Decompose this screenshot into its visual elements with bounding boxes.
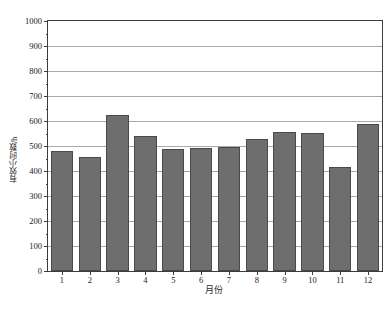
x-axis-tick-label: 10 <box>308 276 317 285</box>
y-axis-tick <box>44 246 48 247</box>
y-axis-tick <box>44 271 48 272</box>
gridline <box>48 121 382 122</box>
y-axis-title: 有效小时数/h <box>6 110 22 210</box>
x-axis-tick-label: 8 <box>255 276 259 285</box>
bar <box>106 115 128 271</box>
y-axis-tick-label: 900 <box>29 42 42 51</box>
y-axis-minor-tick <box>46 234 48 235</box>
bar <box>301 133 323 271</box>
bar <box>329 167 351 271</box>
y-axis-tick <box>44 71 48 72</box>
y-axis-tick-label: 100 <box>29 242 42 251</box>
y-axis-minor-tick <box>46 34 48 35</box>
y-axis-minor-tick <box>46 134 48 135</box>
y-axis-minor-tick <box>46 209 48 210</box>
y-axis-tick <box>44 46 48 47</box>
x-axis-tick-label: 5 <box>171 276 175 285</box>
x-axis-tick-label: 7 <box>227 276 231 285</box>
plot-area: 0100200300400500600700800900100012345678… <box>47 20 383 272</box>
bar <box>246 139 268 271</box>
y-axis-tick-label: 500 <box>29 142 42 151</box>
y-axis-tick <box>44 171 48 172</box>
x-axis-tick-label: 3 <box>115 276 119 285</box>
bar <box>190 148 212 271</box>
y-axis-tick-label: 800 <box>29 67 42 76</box>
bar <box>218 147 240 272</box>
y-axis-minor-tick <box>46 84 48 85</box>
y-axis-tick-label: 400 <box>29 167 42 176</box>
x-axis-tick-label: 12 <box>364 276 373 285</box>
x-axis-tick-label: 11 <box>336 276 344 285</box>
x-axis-tick-label: 2 <box>88 276 92 285</box>
y-axis-tick <box>44 196 48 197</box>
y-axis-tick <box>44 221 48 222</box>
gridline <box>48 146 382 147</box>
y-axis-tick-label: 0 <box>38 267 42 276</box>
x-axis-title: 月份 <box>47 285 381 295</box>
plot-inner: 0100200300400500600700800900100012345678… <box>48 21 382 271</box>
y-axis-tick <box>44 96 48 97</box>
y-axis-tick <box>44 121 48 122</box>
bar-chart-figure: 有效小时数/h 01002003004005006007008009001000… <box>0 0 390 312</box>
x-axis-tick-label: 1 <box>60 276 64 285</box>
y-axis-minor-tick <box>46 184 48 185</box>
y-axis-minor-tick <box>46 59 48 60</box>
x-axis-tick-label: 6 <box>199 276 203 285</box>
y-axis-tick-label: 300 <box>29 192 42 201</box>
y-axis-tick <box>44 21 48 22</box>
y-axis-minor-tick <box>46 259 48 260</box>
bar <box>134 136 156 271</box>
y-axis-minor-tick <box>46 159 48 160</box>
y-axis-tick-label: 1000 <box>25 17 42 26</box>
y-axis-tick <box>44 146 48 147</box>
x-axis-tick-label: 9 <box>282 276 286 285</box>
gridline <box>48 71 382 72</box>
bar <box>51 151 73 271</box>
y-axis-minor-tick <box>46 109 48 110</box>
y-axis-tick-label: 200 <box>29 217 42 226</box>
gridline <box>48 46 382 47</box>
bar <box>357 124 379 272</box>
gridline <box>48 96 382 97</box>
x-axis-tick-label: 4 <box>143 276 147 285</box>
bar <box>79 157 101 272</box>
y-axis-tick-label: 600 <box>29 117 42 126</box>
bar <box>162 149 184 271</box>
bar <box>273 132 295 272</box>
y-axis-tick-label: 700 <box>29 92 42 101</box>
